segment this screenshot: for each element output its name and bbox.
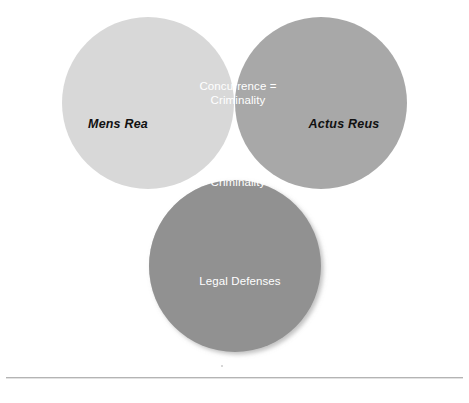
page-speck: [221, 365, 223, 367]
legal-defenses-circle: [149, 180, 321, 352]
venn-diagram-canvas: Mens Rea Actus Reus Concurrence = Crimin…: [0, 0, 469, 403]
bottom-divider-rule-shadow: [6, 378, 463, 379]
mens-rea-circle: [62, 17, 234, 189]
actus-reus-circle: [235, 17, 407, 189]
venn-circles-graphic: [0, 0, 469, 403]
